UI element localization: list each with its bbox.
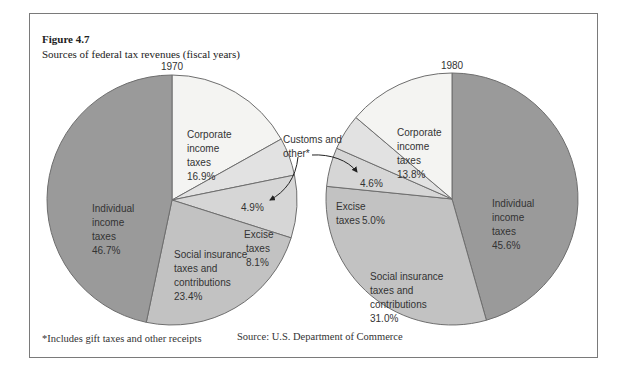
svg-text:Excise: Excise bbox=[244, 229, 274, 240]
pie-1980 bbox=[326, 73, 578, 325]
year-label-1980: 1980 bbox=[441, 60, 464, 71]
svg-text:8.1%: 8.1% bbox=[246, 257, 269, 268]
source-note: Source: U.S. Department of Commerce bbox=[237, 331, 403, 342]
svg-text:taxes and: taxes and bbox=[174, 263, 217, 274]
svg-text:Social insurance: Social insurance bbox=[174, 249, 248, 260]
pie-charts: 1970 1980 Individual income taxes 46.7% … bbox=[0, 0, 630, 377]
svg-text:13.8%: 13.8% bbox=[397, 169, 425, 180]
svg-text:taxes: taxes bbox=[397, 155, 421, 166]
pie-1970 bbox=[47, 75, 297, 325]
svg-text:Individual: Individual bbox=[492, 198, 534, 209]
svg-text:4.9%: 4.9% bbox=[241, 202, 264, 213]
footnote: *Includes gift taxes and other receipts bbox=[42, 333, 201, 344]
svg-text:income: income bbox=[187, 143, 220, 154]
svg-text:taxes: taxes bbox=[492, 226, 516, 237]
svg-text:4.6%: 4.6% bbox=[360, 178, 383, 189]
svg-text:23.4%: 23.4% bbox=[174, 291, 202, 302]
svg-text:31.0%: 31.0% bbox=[370, 313, 398, 324]
svg-text:Social insurance: Social insurance bbox=[370, 271, 444, 282]
svg-text:Corporate: Corporate bbox=[397, 127, 442, 138]
svg-text:16.9%: 16.9% bbox=[187, 171, 215, 182]
svg-text:income: income bbox=[92, 217, 125, 228]
svg-text:Individual: Individual bbox=[92, 203, 134, 214]
svg-text:income: income bbox=[397, 141, 430, 152]
svg-text:contributions: contributions bbox=[370, 299, 427, 310]
svg-text:46.7%: 46.7% bbox=[92, 245, 120, 256]
svg-text:5.0%: 5.0% bbox=[362, 215, 385, 226]
svg-text:Excise: Excise bbox=[336, 201, 366, 212]
svg-text:taxes: taxes bbox=[187, 157, 211, 168]
svg-text:Corporate: Corporate bbox=[187, 129, 232, 140]
svg-text:taxes: taxes bbox=[336, 215, 360, 226]
callout-label: Customs and bbox=[283, 134, 342, 145]
svg-text:45.6%: 45.6% bbox=[492, 240, 520, 251]
callout-label-2: other* bbox=[283, 148, 310, 159]
svg-text:taxes: taxes bbox=[246, 243, 270, 254]
svg-text:taxes and: taxes and bbox=[370, 285, 413, 296]
svg-text:contributions: contributions bbox=[174, 277, 231, 288]
svg-text:income: income bbox=[492, 212, 525, 223]
year-label-1970: 1970 bbox=[161, 61, 184, 72]
slice-individual bbox=[47, 75, 172, 322]
svg-text:taxes: taxes bbox=[92, 231, 116, 242]
